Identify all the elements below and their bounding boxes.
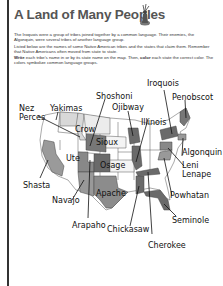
label-seminole: Seminole — [172, 217, 209, 225]
label-osage: Osage — [100, 162, 125, 170]
label-ojibway: Ojibway — [112, 104, 144, 112]
label-chickasaw: Chickasaw — [107, 226, 149, 234]
label-iroquois: Iroquois — [147, 80, 179, 88]
state-wisconsin-ojibway — [128, 128, 140, 144]
label-shasta: Shasta — [23, 182, 50, 190]
state-massachusetts-algonquin — [178, 134, 186, 140]
label-shoshoni: Shoshoni — [96, 93, 132, 101]
label-leni: Leni — [182, 162, 199, 170]
label-penobscot: Penobscot — [172, 94, 213, 102]
label-cherokee: Cherokee — [148, 242, 186, 250]
leader-chickasaw — [130, 186, 139, 226]
label-perces: Perces — [19, 114, 45, 122]
label-yakimas: Yakimas — [50, 105, 82, 113]
label-apache: Apache — [96, 190, 126, 198]
state-washington-yakimas — [60, 112, 78, 126]
label-navajo: Navajo — [52, 197, 80, 205]
label-lenape: Lenape — [182, 171, 211, 179]
label-crow: Crow — [75, 126, 95, 134]
state-mississippi-chickasaw — [136, 176, 144, 194]
label-illinois: Illinois — [141, 119, 166, 127]
leader-shasta — [40, 160, 48, 178]
label-sioux: Sioux — [96, 139, 118, 147]
state-pennsylvania-lenilenape — [160, 142, 172, 150]
label-arapaho: Arapaho — [72, 222, 106, 230]
state-arizona-navajo — [78, 172, 94, 196]
state-maine-penobscot — [180, 108, 190, 126]
label-powhatan: Powhatan — [170, 192, 209, 200]
label-nez: Nez — [19, 105, 34, 113]
label-algonquin: Algonquin — [182, 149, 222, 157]
label-ute: Ute — [66, 155, 80, 163]
